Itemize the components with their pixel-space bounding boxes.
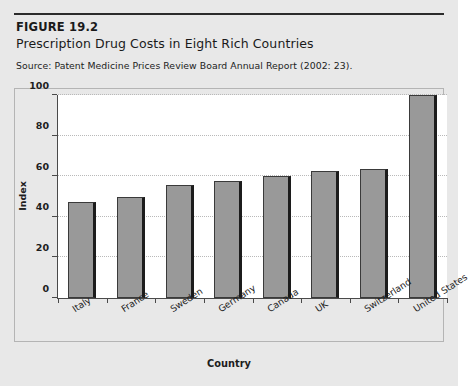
bar: [409, 95, 437, 298]
gridline: [58, 175, 447, 176]
y-axis-tick-label: 20: [36, 241, 49, 252]
y-axis-tick: [52, 135, 57, 136]
y-axis-title: Index: [17, 181, 28, 211]
y-axis-tick: [52, 256, 57, 257]
x-axis-tick: [253, 298, 254, 303]
gridline: [58, 135, 447, 136]
y-axis-tick: [52, 216, 57, 217]
x-axis-tick: [398, 298, 399, 303]
bar: [311, 171, 339, 298]
y-axis-tick-label: 40: [36, 201, 49, 212]
x-axis-tick: [155, 298, 156, 303]
figure-title: Prescription Drug Costs in Eight Rich Co…: [16, 36, 314, 51]
plot-area: 020406080100 ItalyFranceSwedenGermanyCan…: [57, 95, 447, 299]
y-axis-tick-label: 60: [36, 160, 49, 171]
header-rule: [14, 13, 444, 15]
bar: [117, 197, 145, 299]
x-axis-tick: [58, 298, 59, 303]
x-axis-tick: [350, 298, 351, 303]
x-axis-title: Country: [207, 358, 251, 369]
figure-source-note: Source: Patent Medicine Prices Review Bo…: [16, 60, 352, 71]
y-axis-tick: [52, 297, 57, 298]
y-axis-tick: [52, 175, 57, 176]
x-axis-tick: [107, 298, 108, 303]
y-axis-tick-label: 100: [29, 79, 49, 90]
y-axis-tick-label: 80: [36, 120, 49, 131]
gridline: [58, 94, 447, 95]
x-axis-tick: [301, 298, 302, 303]
bar: [68, 202, 96, 298]
y-axis-tick-label: 0: [42, 282, 49, 293]
x-axis-tick: [204, 298, 205, 303]
bar: [214, 181, 242, 298]
x-axis-tick: [447, 298, 448, 303]
bar: [263, 176, 291, 298]
bar: [166, 185, 194, 298]
y-axis-tick: [52, 94, 57, 95]
figure-number-label: FIGURE 19.2: [16, 20, 98, 34]
bar: [360, 169, 388, 298]
